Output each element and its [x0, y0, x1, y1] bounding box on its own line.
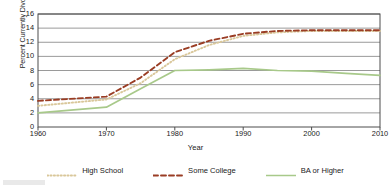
series-line-ba-or-higher	[38, 68, 380, 113]
legend-label: BA or Higher	[301, 166, 344, 175]
dotted-line-swatch	[47, 166, 77, 175]
legend-item-some-college[interactable]: Some College	[153, 166, 236, 175]
legend-item-ba-or-higher[interactable]: BA or Higher	[266, 166, 344, 175]
caption-fragment	[3, 180, 45, 185]
x-tick-label: 2010	[360, 129, 391, 138]
dashed-line-swatch	[153, 166, 183, 175]
series-line-some-college	[38, 30, 380, 101]
x-tick-label: 1970	[86, 129, 126, 138]
legend-label: Some College	[188, 166, 236, 175]
x-tick-label: 1960	[18, 129, 58, 138]
chart-legend: High SchoolSome CollegeBA or Higher	[0, 160, 391, 180]
legend-item-high-school[interactable]: High School	[47, 166, 123, 175]
x-tick-label: 1990	[223, 129, 263, 138]
legend-label: High School	[82, 166, 123, 175]
x-tick-label: 2000	[292, 129, 332, 138]
solid-line-swatch	[266, 166, 296, 175]
divorce-rate-by-education-line-chart: 1614121086420 Percent Currently Divorced…	[0, 0, 391, 187]
plot-area	[0, 0, 391, 187]
x-tick-label: 1980	[155, 129, 195, 138]
